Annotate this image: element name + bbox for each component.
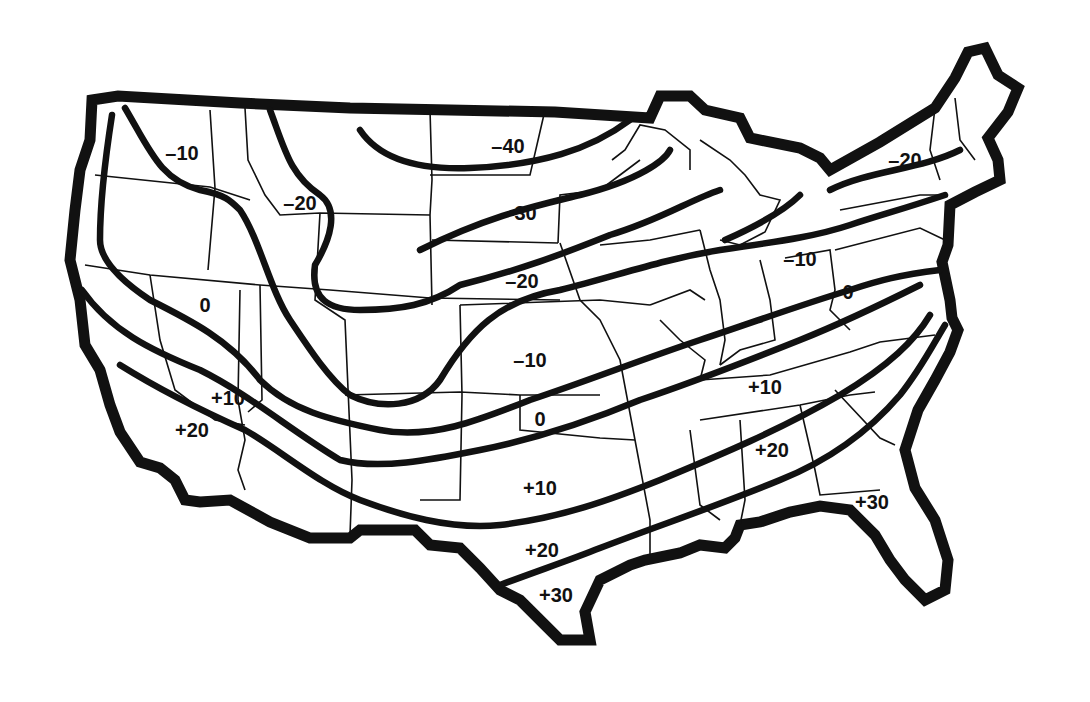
label-nv-zero: 0: [199, 294, 210, 316]
label-tx-plus10: +10: [523, 477, 557, 499]
label-tx-plus20: +20: [525, 539, 559, 561]
label-nw-minus10: –10: [165, 142, 198, 164]
label-al-plus20: +20: [755, 439, 789, 461]
us-isotherm-map: –10 –20 –40 –30 –20 0 –10 +10 +20 0 +10 …: [0, 0, 1090, 702]
label-tx-plus30: +30: [539, 584, 573, 606]
label-oh-minus10: –10: [783, 248, 816, 270]
label-fl-plus30: +30: [855, 491, 889, 513]
label-tn-plus10: +10: [748, 376, 782, 398]
label-ks-minus10: –10: [513, 349, 546, 371]
label-ny-minus20: –20: [888, 149, 921, 171]
label-sd-minus30: –30: [503, 202, 536, 224]
label-ne-minus20: –20: [505, 270, 538, 292]
label-ca-plus20: +20: [175, 419, 209, 441]
label-wv-zero: 0: [842, 281, 853, 303]
label-az-plus10: +10: [211, 387, 245, 409]
label-nd-minus40: –40: [491, 135, 524, 157]
label-ok-zero: 0: [534, 408, 545, 430]
label-mt-minus20: –20: [283, 192, 316, 214]
